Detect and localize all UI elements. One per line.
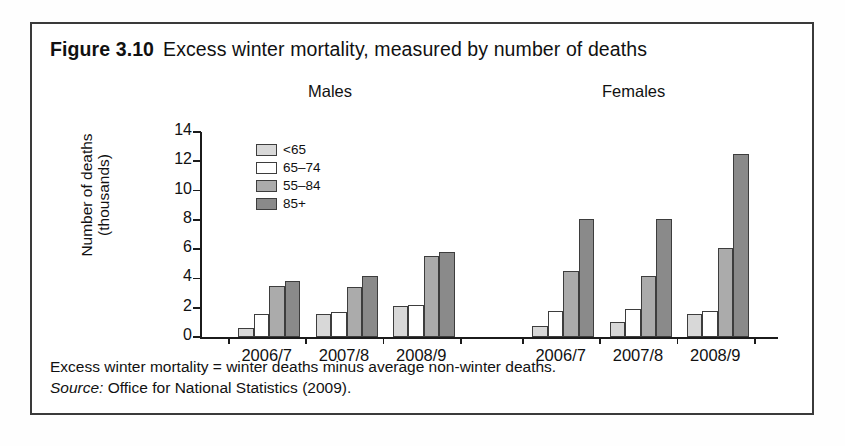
bar-females-2007-8-65–74	[625, 309, 641, 337]
bar-females-2007-8-85+	[656, 219, 672, 337]
x-axis-tick	[383, 337, 385, 344]
note-definition: Excess winter mortality = winter deaths …	[50, 356, 798, 377]
bar-males-2008-9-65–74	[408, 305, 424, 337]
y-axis-tick-label: 4	[146, 267, 192, 285]
legend-label: <65	[283, 144, 306, 156]
y-axis-title: Number of deaths (thousands)	[78, 100, 112, 290]
x-axis-tick	[305, 337, 307, 344]
source-label: Source:	[50, 379, 103, 396]
note-source: Source: Office for National Statistics (…	[50, 377, 798, 398]
figure-container: Figure 3.10Excess winter mortality, meas…	[0, 0, 845, 446]
x-axis-tick	[228, 337, 230, 344]
panel-title-females: Females	[602, 82, 665, 101]
chart-legend: <6565–7455–8485+	[256, 142, 321, 214]
bar-females-2006-7-85+	[579, 219, 595, 337]
bar-males-2006-7-85+	[285, 281, 301, 337]
legend-label: 55–84	[283, 180, 321, 192]
bar-males-2007-8-55–84	[347, 287, 363, 337]
figure-title-text: Excess winter mortality, measured by num…	[163, 38, 647, 60]
bar-males-2008-9-<65	[393, 306, 409, 337]
bar-females-2007-8-55–84	[641, 276, 657, 338]
legend-swatch-icon	[256, 198, 277, 210]
x-axis-tick	[460, 337, 462, 344]
bar-females-2008-9-<65	[687, 314, 703, 337]
legend-item-<65: <65	[256, 142, 321, 158]
bar-males-2007-8-85+	[362, 276, 378, 338]
figure-title: Figure 3.10Excess winter mortality, meas…	[50, 38, 647, 61]
bar-males-2006-7-55–84	[269, 286, 285, 337]
source-value: Office for National Statistics (2009).	[108, 379, 352, 396]
x-axis-tick	[754, 337, 756, 344]
legend-swatch-icon	[256, 144, 277, 156]
bar-males-2006-7-65–74	[254, 314, 270, 337]
legend-swatch-icon	[256, 180, 277, 192]
y-axis-tick-label: 10	[146, 180, 192, 198]
bar-females-2008-9-85+	[733, 154, 749, 337]
bar-females-2006-7-65–74	[548, 311, 564, 337]
x-axis-line	[200, 337, 778, 339]
y-axis-tick-label: 14	[146, 121, 192, 139]
bar-females-2008-9-55–84	[718, 248, 734, 337]
bar-females-2008-9-65–74	[702, 311, 718, 337]
figure-notes: Excess winter mortality = winter deaths …	[50, 356, 798, 398]
bar-males-2006-7-<65	[238, 328, 254, 337]
chart-plot-area: Number of deaths (thousands) 02468101214…	[32, 82, 816, 350]
bar-males-2008-9-85+	[439, 252, 455, 337]
figure-number: Figure 3.10	[50, 38, 154, 60]
y-axis-tick-label: 2	[146, 297, 192, 315]
x-axis-tick	[522, 337, 524, 344]
legend-label: 85+	[283, 198, 306, 210]
legend-item-65–74: 65–74	[256, 160, 321, 176]
bar-males-2007-8-65–74	[331, 312, 347, 337]
y-axis-tick-label: 0	[146, 326, 192, 344]
y-axis-tick-label: 6	[146, 238, 192, 256]
y-axis-tick-label: 8	[146, 209, 192, 227]
bar-females-2006-7-55–84	[563, 271, 579, 337]
legend-swatch-icon	[256, 162, 277, 174]
bar-females-2007-8-<65	[610, 322, 626, 337]
x-axis-tick	[677, 337, 679, 344]
figure-frame: Figure 3.10Excess winter mortality, meas…	[30, 22, 814, 415]
legend-item-55–84: 55–84	[256, 178, 321, 194]
panel-title-males: Males	[308, 82, 352, 101]
x-axis-tick	[599, 337, 601, 344]
legend-label: 65–74	[283, 162, 321, 174]
bar-females-2006-7-<65	[532, 326, 548, 337]
legend-item-85+: 85+	[256, 196, 321, 212]
bar-males-2007-8-<65	[316, 314, 332, 337]
y-axis-tick-label: 12	[146, 150, 192, 168]
bar-males-2008-9-55–84	[424, 256, 440, 337]
